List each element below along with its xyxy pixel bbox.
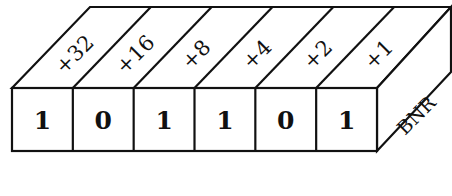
bit-value: 0 [277,106,294,135]
bit-value: 0 [95,106,112,135]
bit-value: 1 [34,106,51,135]
bit-value: 1 [338,106,355,135]
bit-value: 1 [216,106,233,135]
bit-value: 1 [155,106,172,135]
register-svg: +32+16+8+4+2+1 101101 BNR [0,0,452,196]
bnr-register-diagram: +32+16+8+4+2+1 101101 BNR [0,0,452,196]
